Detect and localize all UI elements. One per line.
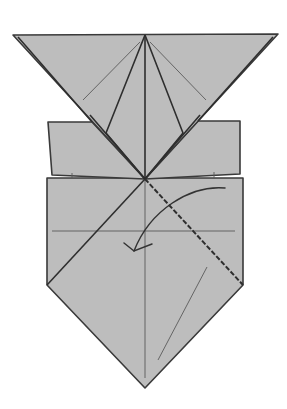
origami-diagram [0, 0, 287, 409]
